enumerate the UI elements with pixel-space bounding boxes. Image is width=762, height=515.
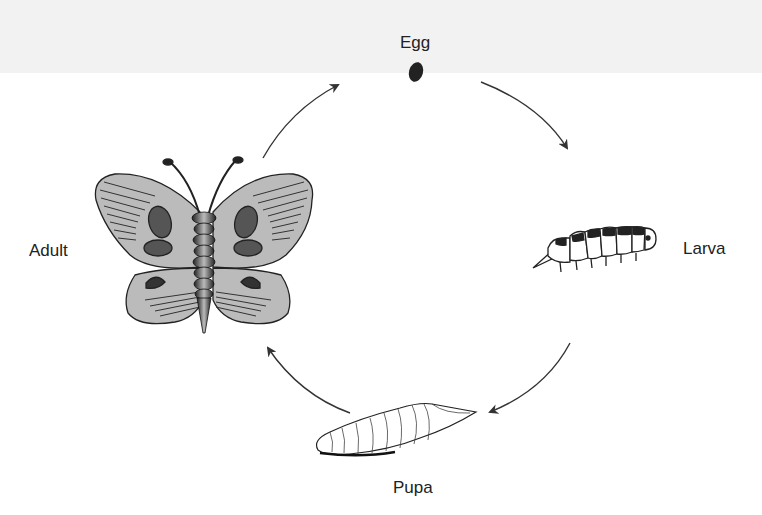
egg-icon bbox=[407, 61, 426, 84]
pupa-icon bbox=[317, 404, 477, 456]
arrow-pupa-to-adult bbox=[268, 348, 350, 413]
arrow-larva-to-pupa bbox=[490, 343, 570, 412]
larva-icon bbox=[533, 227, 656, 272]
arrow-adult-to-egg bbox=[263, 85, 338, 158]
diagram-canvas bbox=[0, 0, 762, 515]
arrow-egg-to-larva bbox=[481, 82, 567, 148]
life-cycle-diagram: Egg Larva Pupa Adult bbox=[0, 0, 762, 515]
stage-label-larva: Larva bbox=[683, 239, 726, 259]
stage-label-egg: Egg bbox=[400, 33, 430, 53]
butterfly-icon bbox=[95, 157, 312, 333]
stage-label-adult: Adult bbox=[29, 241, 68, 261]
stage-label-pupa: Pupa bbox=[393, 478, 433, 498]
